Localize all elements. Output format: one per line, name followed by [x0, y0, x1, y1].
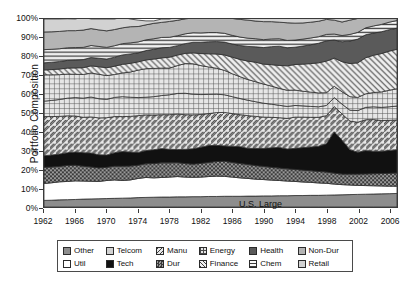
x-tick-mark [106, 209, 107, 213]
legend-label: Manu [167, 246, 187, 255]
legend-swatch-dur [156, 260, 164, 268]
y-axis-tick-labels: 0%10%20%30%40%50%60%70%80%90%100% [4, 0, 38, 288]
y-tick-label: 70% [4, 71, 38, 79]
legend-item-util[interactable]: Util [63, 257, 106, 270]
legend-label: Dur [167, 259, 180, 268]
x-tick-label: 1994 [286, 216, 305, 226]
legend-label: Health [260, 246, 283, 255]
x-tick-mark [232, 209, 233, 213]
legend-item-finance[interactable]: Finance [199, 257, 249, 270]
legend-item-chem[interactable]: Chem [249, 257, 297, 270]
legend-label: Tech [117, 259, 134, 268]
legend-swatch-telcom [106, 247, 114, 255]
x-tick-mark [264, 209, 265, 213]
x-tick-label: 1978 [160, 216, 179, 226]
legend-swatch-chem [249, 260, 257, 268]
legend-label: Non-Dur [309, 246, 339, 255]
stacked-area-series [44, 19, 397, 207]
legend-item-retail[interactable]: Retail [298, 257, 348, 270]
annotation-us-large: U.S. Large [239, 199, 282, 209]
x-tick-mark [169, 209, 170, 213]
legend-row-2: UtilTechDurFinanceChemRetail [63, 257, 348, 270]
legend-item-non-dur[interactable]: Non-Dur [298, 244, 348, 257]
x-tick-mark [75, 209, 76, 213]
x-tick-label: 2006 [381, 216, 400, 226]
x-tick-mark [201, 209, 202, 213]
legend-swatch-health [249, 247, 257, 255]
legend-item-tech[interactable]: Tech [106, 257, 156, 270]
y-tick-label: 100% [4, 14, 38, 22]
x-tick-label: 1970 [97, 216, 116, 226]
legend-swatch-manu [156, 247, 164, 255]
x-tick-label: 1982 [191, 216, 210, 226]
x-tick-label: 1974 [128, 216, 147, 226]
x-tick-mark [390, 209, 391, 213]
legend-label: Other [74, 246, 94, 255]
x-tick-mark [295, 209, 296, 213]
legend-swatch-non-dur [298, 247, 306, 255]
y-tick-label: 10% [4, 185, 38, 193]
x-tick-mark [327, 209, 328, 213]
legend-item-manu[interactable]: Manu [156, 244, 199, 257]
x-axis-tick-labels: 1962196619701974197819821986199019941998… [43, 209, 398, 231]
legend-swatch-energy [199, 247, 207, 255]
legend-label: Chem [260, 259, 281, 268]
legend-label: Energy [210, 246, 235, 255]
y-tick-label: 90% [4, 33, 38, 41]
x-tick-label: 1986 [223, 216, 242, 226]
x-tick-label: 1966 [65, 216, 84, 226]
legend-swatch-tech [106, 260, 114, 268]
x-tick-mark [138, 209, 139, 213]
legend-item-health[interactable]: Health [249, 244, 297, 257]
x-tick-label: 1962 [34, 216, 53, 226]
x-tick-label: 2002 [349, 216, 368, 226]
legend-item-energy[interactable]: Energy [199, 244, 249, 257]
y-tick-label: 50% [4, 109, 38, 117]
plot-area: U.S. Large [43, 18, 398, 208]
chart-legend: OtherTelcomManuEnergyHealthNon-Dur UtilT… [57, 240, 353, 272]
y-tick-label: 60% [4, 90, 38, 98]
legend-item-dur[interactable]: Dur [156, 257, 199, 270]
y-tick-label: 0% [4, 204, 38, 212]
chart-figure: Portfolio Composition 0%10%20%30%40%50%6… [0, 0, 410, 288]
legend-label: Telcom [117, 246, 142, 255]
legend-label: Finance [210, 259, 238, 268]
legend-swatch-retail [298, 260, 306, 268]
legend-item-other[interactable]: Other [63, 244, 106, 257]
x-tick-label: 1998 [318, 216, 337, 226]
legend-label: Util [74, 259, 86, 268]
x-tick-mark [359, 209, 360, 213]
legend-swatch-util [63, 260, 71, 268]
x-tick-mark [43, 209, 44, 213]
y-tick-label: 20% [4, 166, 38, 174]
y-tick-label: 80% [4, 52, 38, 60]
legend-item-telcom[interactable]: Telcom [106, 244, 156, 257]
y-tick-label: 40% [4, 128, 38, 136]
legend-row-1: OtherTelcomManuEnergyHealthNon-Dur [63, 244, 348, 257]
x-tick-label: 1990 [254, 216, 273, 226]
y-tick-label: 30% [4, 147, 38, 155]
legend-swatch-other [63, 247, 71, 255]
plot-frame [43, 18, 398, 208]
legend-swatch-finance [199, 260, 207, 268]
legend-label: Retail [309, 259, 329, 268]
